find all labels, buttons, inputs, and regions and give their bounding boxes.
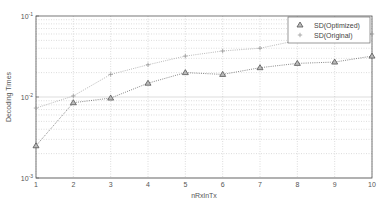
- plus-marker: [108, 72, 112, 76]
- plus-marker: [258, 46, 262, 50]
- x-tick-label: 1: [34, 181, 38, 188]
- plus-marker: [370, 32, 374, 36]
- legend: SD(Optimized)SD(Original): [288, 17, 370, 43]
- legend-label: SD(Optimized): [314, 22, 360, 30]
- triangle-marker: [294, 60, 300, 65]
- decoding-times-chart: 10-310-210-1 12345678910 nRxlnTx Decodin…: [0, 0, 382, 205]
- legend-label: SD(Original): [314, 32, 353, 40]
- triangle-marker: [369, 53, 375, 58]
- plus-marker: [146, 63, 150, 67]
- x-tick-label: 10: [368, 181, 376, 188]
- x-axis-label: nRxlnTx: [191, 192, 217, 199]
- x-tick-label: 5: [183, 181, 187, 188]
- plus-marker: [71, 94, 75, 98]
- triangle-marker: [182, 70, 188, 75]
- x-tick-label: 9: [333, 181, 337, 188]
- plus-marker: [34, 106, 38, 110]
- series-sd-original-: [34, 32, 374, 111]
- x-tick-label: 6: [221, 181, 225, 188]
- y-tick-label: 10-1: [21, 11, 33, 20]
- y-tick-label: 10-3: [21, 173, 33, 182]
- plus-marker: [220, 49, 224, 53]
- x-tick-label: 8: [295, 181, 299, 188]
- y-axis-label: Decoding Times: [5, 71, 13, 122]
- x-tick-label: 2: [71, 181, 75, 188]
- x-tick-label: 7: [258, 181, 262, 188]
- triangle-marker: [108, 95, 114, 100]
- y-tick-label: 10-2: [21, 92, 33, 101]
- plus-marker: [183, 54, 187, 58]
- x-tick-label: 3: [109, 181, 113, 188]
- triangle-marker: [220, 71, 226, 76]
- data-series: [33, 32, 375, 148]
- x-tick-label: 4: [146, 181, 150, 188]
- series-sd-optimized-: [33, 53, 375, 148]
- x-axis-ticks: 12345678910: [34, 181, 376, 188]
